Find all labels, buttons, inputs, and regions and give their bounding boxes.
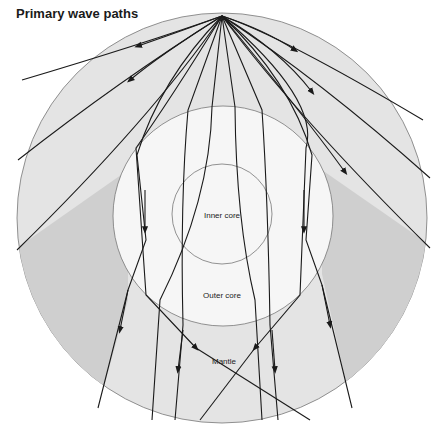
earth-diagram: Inner core Outer core Mantle <box>0 0 445 426</box>
outer-core-label: Outer core <box>203 291 241 300</box>
mantle-label: Mantle <box>212 357 237 366</box>
inner-core-label: Inner core <box>204 211 241 220</box>
